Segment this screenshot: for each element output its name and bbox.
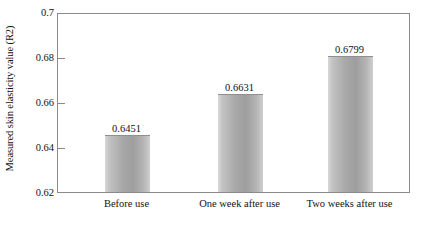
- bar-before-use[interactable]: [105, 135, 150, 193]
- y-tick-label-0.7: 0.7: [20, 8, 54, 19]
- y-axis-title-text: Measured skin elasticity value (R2): [5, 25, 16, 171]
- x-tick-label-two-weeks-after-use: Two weeks after use: [307, 198, 393, 210]
- bar-value-two-weeks-after-use: 0.6799: [335, 45, 364, 56]
- bar-two-weeks-after-use[interactable]: [328, 56, 373, 192]
- y-axis-title: Measured skin elasticity value (R2): [0, 0, 20, 196]
- y-tick-label-0.68: 0.68: [20, 53, 54, 64]
- plot-area: [57, 13, 410, 193]
- x-tick-label-one-week-after-use: One week after use: [199, 198, 280, 210]
- y-tick-mark-0.68: [58, 58, 65, 59]
- y-tick-mark-0.66: [58, 103, 65, 104]
- y-tick-label-0.66: 0.66: [20, 98, 54, 109]
- bar-chart-figure: Measured skin elasticity value (R2) 0.7 …: [0, 0, 427, 225]
- y-tick-mark-0.64: [58, 148, 65, 149]
- bar-value-one-week-after-use: 0.6631: [225, 83, 254, 94]
- y-tick-label-0.64: 0.64: [20, 143, 54, 154]
- x-tick-label-before-use: Before use: [104, 198, 149, 210]
- y-tick-label-0.62: 0.62: [20, 188, 54, 199]
- bar-value-before-use: 0.6451: [112, 124, 141, 135]
- bar-one-week-after-use[interactable]: [218, 94, 263, 192]
